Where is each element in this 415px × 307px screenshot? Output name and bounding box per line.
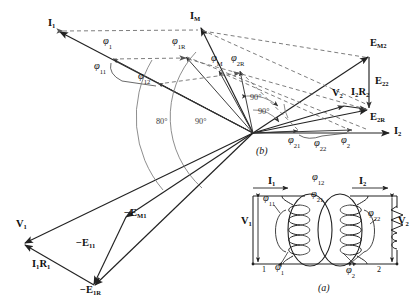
circuit-flux-leaders <box>274 205 376 262</box>
secondary-lead-bottom <box>357 256 367 264</box>
primary-lead-top <box>282 196 293 205</box>
circuit-label-I1: I1 <box>268 176 275 187</box>
secondary-lead-top <box>357 196 368 205</box>
load-branch <box>391 206 403 249</box>
circuit-diagram-svg <box>0 0 415 307</box>
circuit-label-phi1: φ1 <box>275 262 284 275</box>
dot-right <box>396 263 399 266</box>
coil-secondary-back <box>340 205 350 255</box>
circuit-label-V2: V2 <box>398 216 409 227</box>
circuit-label-phi11: φ11 <box>263 193 275 206</box>
circuit-label-phi22: φ22 <box>368 208 380 221</box>
circuit-terminal-2: 2 <box>377 266 381 274</box>
primary-winding <box>276 196 310 264</box>
circuit-label-I2: I2 <box>359 176 366 187</box>
figure-label-a: (a) <box>318 283 330 293</box>
coil-secondary <box>350 205 361 255</box>
circuit-label-phi12: φ12 <box>312 172 324 185</box>
circuit-label-V1: V1 <box>241 216 252 227</box>
primary-leakage-loop <box>276 210 287 252</box>
coil-primary-back <box>300 205 310 255</box>
inductor-coil <box>392 233 397 249</box>
circuit-label-phi21: φ21 <box>311 189 323 202</box>
dot-left <box>252 263 255 266</box>
circuit-label-phi2: φ2 <box>346 265 355 278</box>
circuit-terminal-1: 1 <box>262 266 266 274</box>
figure-canvas: I1 IM I2 EM2 E22 E2R V2 I2R2 V1 I1R1 −E1… <box>0 0 415 307</box>
coil-primary <box>289 205 300 255</box>
leader-phi1 <box>282 252 288 262</box>
